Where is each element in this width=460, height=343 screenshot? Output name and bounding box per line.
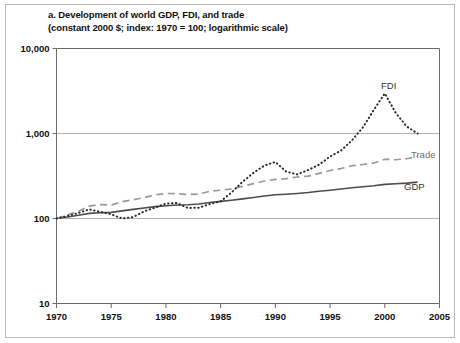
x-tick-label: 1990 <box>265 311 286 322</box>
x-tick-label: 2000 <box>374 311 395 322</box>
x-axis-ticks <box>57 304 440 309</box>
series-label-gdp: GDP <box>404 181 425 192</box>
x-tick-label: 1970 <box>46 311 67 322</box>
x-axis-tick-labels: 19701975198019851990199520002005 <box>46 311 451 322</box>
x-tick-label: 1975 <box>101 311 123 322</box>
y-axis-tick-labels: 10,0001,00010010 <box>20 43 49 309</box>
series-label-trade: Trade <box>411 149 435 160</box>
x-tick-label: 1980 <box>155 311 176 322</box>
plot-area: 10,0001,00010010 19701975198019851990199… <box>0 0 460 343</box>
y-tick-label: 10 <box>39 298 50 309</box>
y-tick-label: 10,000 <box>20 43 49 54</box>
x-tick-label: 1985 <box>210 311 232 322</box>
figure-container: a. Development of world GDP, FDI, and tr… <box>0 0 460 343</box>
y-tick-label: 100 <box>34 213 50 224</box>
chart-svg: 10,0001,00010010 19701975198019851990199… <box>0 0 460 343</box>
data-series <box>57 93 418 218</box>
y-tick-label: 1,000 <box>26 128 50 139</box>
series-labels: FDITradeGDP <box>381 80 435 192</box>
series-label-fdi: FDI <box>381 80 396 91</box>
x-tick-label: 1995 <box>320 311 342 322</box>
x-tick-label: 2005 <box>429 311 451 322</box>
